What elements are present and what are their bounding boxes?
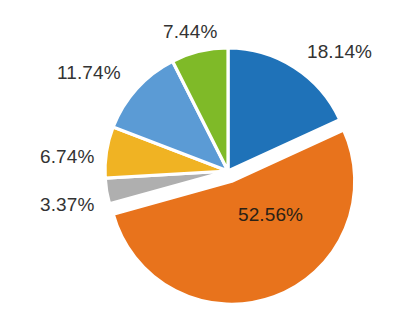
slice-label-green: 7.44% <box>163 22 217 41</box>
slice-label-gray: 3.37% <box>40 195 94 214</box>
slice-label-dark-blue: 18.14% <box>307 42 372 61</box>
slice-label-orange: 52.56% <box>238 205 303 224</box>
pie-chart: 7.44% 18.14% 11.74% 6.74% 3.37% 52.56% <box>0 0 395 321</box>
slice-label-yellow: 6.74% <box>40 147 94 166</box>
pie-slice-group <box>105 48 355 304</box>
slice-label-light-blue: 11.74% <box>57 63 121 82</box>
